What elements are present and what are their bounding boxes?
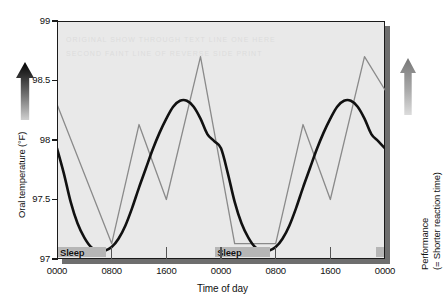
y-axis-title-left: Oral temperature (°F) <box>16 132 27 218</box>
x-axis-tick-label: 0000 <box>32 265 82 276</box>
x-axis-tick <box>111 247 112 259</box>
sleep-band-label: Sleep <box>60 247 84 258</box>
x-axis-tick <box>166 247 167 259</box>
x-axis-tick-label: 0000 <box>360 265 410 276</box>
y-axis-tick-label: 97 <box>9 254 50 264</box>
y-axis-tick-label: 98.5 <box>9 75 50 85</box>
y-axis-title-right-line2: (= Shorter reaction time) <box>431 172 442 270</box>
y-axis-tick <box>52 139 58 140</box>
x-axis-tick-label: 1600 <box>305 265 355 276</box>
chart-figure: ORIGINAL SHOW THROUGH TEXT LINE ONE HERE… <box>0 0 445 304</box>
y-axis-title-right-line1: Performance <box>419 218 430 270</box>
x-axis-tick-label: 0800 <box>87 265 137 276</box>
y-axis-tick <box>52 199 58 200</box>
x-axis-tick-label: 1600 <box>141 265 191 276</box>
x-axis-tick <box>275 247 276 259</box>
y-axis-tick-label: 99 <box>9 16 50 26</box>
sleep-band <box>376 247 384 257</box>
x-axis-title: Time of day <box>0 283 445 294</box>
y-axis-tick <box>52 80 58 81</box>
x-axis-tick <box>220 247 221 259</box>
x-axis-tick <box>330 247 331 259</box>
y-axis-tick <box>52 20 58 21</box>
x-axis-tick-label: 0000 <box>196 265 246 276</box>
x-axis-tick-label: 0800 <box>251 265 301 276</box>
